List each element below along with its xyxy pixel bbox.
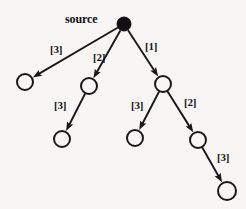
node-lower-mid[interactable] [127, 130, 143, 146]
edge-middle-to-lower-left-weight-label: [3] [54, 100, 66, 111]
node-left[interactable] [17, 74, 33, 90]
graph-diagram-canvas: source [3][2][1][3][3][2][3] [0, 0, 246, 209]
source-node[interactable] [117, 17, 131, 31]
edge-source-to-left-weight-label: [3] [50, 44, 62, 55]
edge-source-to-right-weight-label: [1] [145, 41, 157, 52]
graph-svg [0, 0, 246, 209]
source-label: source [65, 13, 98, 25]
edge-right-to-lower-right-arrowhead-icon [186, 123, 194, 132]
node-lower-left[interactable] [54, 131, 70, 147]
edge-middle-to-lower-left [69, 94, 85, 125]
edge-right-to-lower-mid-weight-label: [3] [131, 100, 143, 111]
edge-right-to-lower-mid [142, 92, 159, 124]
edge-source-to-middle-weight-label: [2] [93, 52, 105, 63]
node-middle[interactable] [81, 78, 97, 94]
node-right[interactable] [155, 76, 171, 92]
edge-lower-right-to-bottom-weight-label: [3] [217, 152, 229, 163]
edge-source-to-right-arrowhead-icon [150, 67, 158, 76]
node-lower-right[interactable] [190, 132, 206, 148]
edge-right-to-lower-right-weight-label: [2] [184, 97, 196, 108]
node-bottom-right[interactable] [218, 182, 236, 200]
